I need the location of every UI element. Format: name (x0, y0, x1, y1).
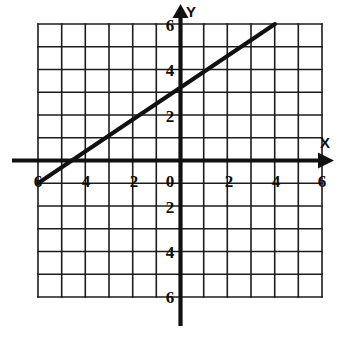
x-tick-label: 6 (34, 172, 43, 191)
y-tick-label: 2 (166, 107, 175, 126)
y-tick-label: 6 (166, 288, 175, 307)
x-axis-label: X (320, 134, 330, 151)
y-tick-label: 6 (166, 16, 175, 35)
coordinate-plane-svg: 6 4 2 0 2 4 6 6 4 2 2 4 6 Y X (0, 0, 341, 345)
y-tick-label: 2 (166, 198, 175, 217)
y-tick-label: 4 (166, 243, 175, 262)
y-axis-label: Y (186, 3, 196, 20)
x-tick-label: 6 (318, 172, 327, 191)
x-tick-label: 2 (130, 172, 139, 191)
x-tick-label: 4 (272, 172, 281, 191)
x-tick-label: 4 (82, 172, 91, 191)
y-tick-label: 4 (166, 61, 175, 80)
coordinate-graph-figure: 6 4 2 0 2 4 6 6 4 2 2 4 6 Y X (0, 0, 341, 345)
x-tick-label: 2 (225, 172, 234, 191)
x-tick-label-origin: 0 (166, 172, 175, 191)
